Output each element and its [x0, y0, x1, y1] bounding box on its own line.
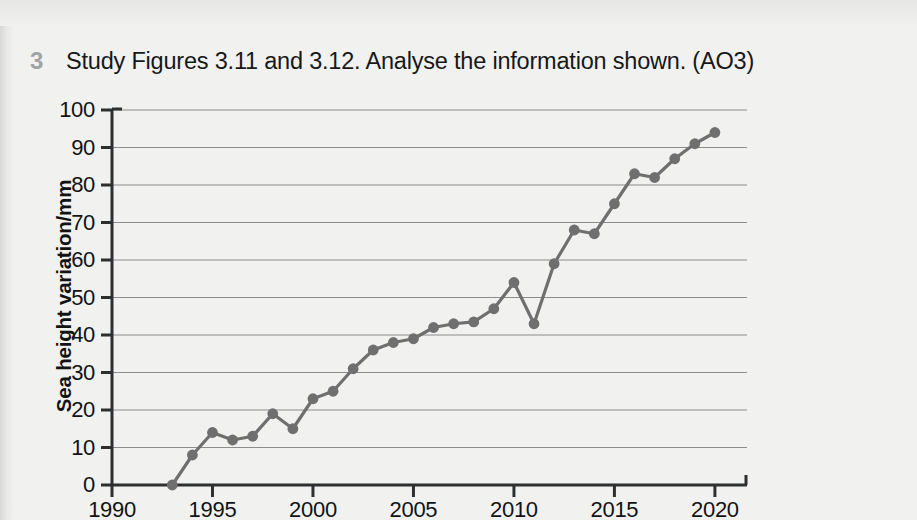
data-point: [448, 318, 459, 329]
textbook-page: 3 Study Figures 3.11 and 3.12. Analyse t…: [0, 0, 917, 520]
data-point: [227, 435, 238, 446]
sea-height-variation-chart: Sea height variation/mm 0102030405060708…: [0, 0, 917, 520]
gridlines: [112, 110, 747, 448]
data-point: [589, 228, 600, 239]
data-point: [609, 198, 620, 209]
data-point: [529, 318, 540, 329]
data-point: [247, 431, 258, 442]
data-point: [408, 333, 419, 344]
data-point: [267, 408, 278, 419]
data-point: [669, 153, 680, 164]
data-point: [649, 172, 660, 183]
data-point: [187, 450, 198, 461]
axis-ticks: [101, 109, 746, 497]
data-point: [629, 168, 640, 179]
data-point: [488, 303, 499, 314]
data-point: [509, 277, 520, 288]
data-point: [308, 393, 319, 404]
series-markers: [167, 127, 720, 490]
data-point: [207, 427, 218, 438]
data-point: [287, 423, 298, 434]
data-point: [368, 345, 379, 356]
data-point: [710, 127, 721, 138]
data-point: [428, 322, 439, 333]
data-point: [468, 316, 479, 327]
plot-area: [0, 0, 917, 520]
data-point: [167, 480, 178, 491]
data-point: [549, 258, 560, 269]
data-point: [569, 225, 580, 236]
data-point: [388, 337, 399, 348]
data-point: [348, 363, 359, 374]
data-point: [689, 138, 700, 149]
data-point: [328, 386, 339, 397]
